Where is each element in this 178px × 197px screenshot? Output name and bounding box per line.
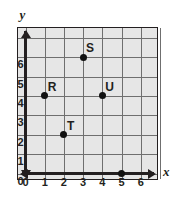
y-tick-label: 0: [10, 176, 24, 187]
x-tick-label: 5: [115, 177, 129, 188]
gridline-vertical: [64, 28, 65, 179]
y-axis-label: y: [20, 8, 26, 21]
point-label-r: R: [48, 81, 57, 93]
data-point-unlabeled: [118, 170, 125, 177]
x-tick-label: 6: [134, 177, 148, 188]
gridline-vertical: [45, 28, 46, 179]
gridline-horizontal: [18, 115, 157, 116]
gridline-horizontal: [18, 57, 157, 58]
y-tick-label: 6: [10, 59, 24, 70]
gridline-horizontal: [18, 38, 157, 39]
gridline-horizontal: [18, 135, 157, 136]
x-tick-label: 2: [57, 177, 71, 188]
point-label-t: T: [67, 120, 74, 132]
coordinate-grid-figure: y x 0123456 0123456 RSTU: [0, 0, 178, 197]
gridline-horizontal: [18, 77, 157, 78]
gridline-vertical: [160, 28, 161, 179]
gridline-vertical: [122, 28, 123, 179]
gridline-horizontal: [18, 154, 157, 155]
y-tick-label: 4: [10, 98, 24, 109]
x-tick-label: 4: [95, 177, 109, 188]
gridline-vertical: [141, 28, 142, 179]
x-tick-label: 1: [38, 177, 52, 188]
gridline-vertical: [102, 28, 103, 179]
arrow-right-icon: [148, 169, 156, 179]
plot-area: 0123456 0123456 RSTU: [17, 27, 158, 180]
point-label-s: S: [86, 42, 94, 54]
point-label-u: U: [105, 81, 114, 93]
x-axis-line: [22, 172, 154, 174]
x-tick-label: 3: [76, 177, 90, 188]
gridline-horizontal: [18, 96, 157, 97]
y-axis-line: [24, 31, 26, 175]
y-tick-label: 5: [10, 79, 24, 90]
arrow-up-icon: [21, 30, 31, 38]
x-axis-label: x: [163, 165, 170, 178]
y-tick-label: 2: [10, 137, 24, 148]
y-tick-label: 1: [10, 156, 24, 167]
y-tick-label: 3: [10, 117, 24, 128]
gridline-vertical: [83, 28, 84, 179]
